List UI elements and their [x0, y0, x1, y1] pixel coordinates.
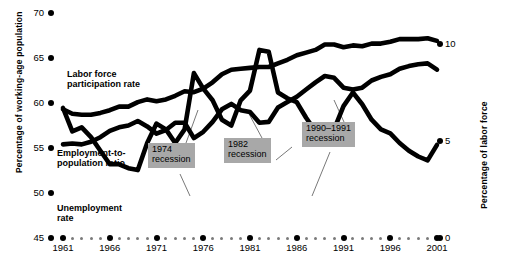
- series-label-unemployment-rate: Unemployment rate: [57, 203, 122, 223]
- chart-container: Percentage of working-age population Per…: [0, 0, 509, 255]
- series-label-employment-to-population-ratio: Employment-to- population ratio: [57, 148, 126, 168]
- callout-leader-line: [276, 147, 292, 160]
- callout-leader-line: [312, 152, 330, 196]
- callout-leader-line: [180, 174, 190, 196]
- callout-1982-recession: 1982 recession: [224, 138, 271, 163]
- series-label-labor-force-participation-rate: Labor force participation rate: [67, 69, 140, 89]
- callout-1974-recession: 1974 recession: [148, 143, 195, 168]
- callout-1990-1991-recession: 1990–1991 recession: [302, 122, 355, 147]
